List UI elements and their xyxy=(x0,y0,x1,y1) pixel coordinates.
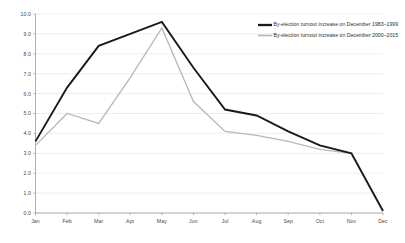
x-tick-label: Jul xyxy=(222,218,229,224)
y-tick-label: 4.0 xyxy=(23,130,31,136)
y-tick-label: 10.0 xyxy=(21,11,32,17)
series-line xyxy=(36,28,384,211)
line-chart: 0.01.02.03.04.05.06.07.08.09.010.0 JanFe… xyxy=(0,0,405,243)
x-tick-label: Apr xyxy=(126,218,135,224)
chart-legend: By-election turnout increase on December… xyxy=(258,21,398,38)
y-tick-label: 9.0 xyxy=(23,31,31,37)
chart-container: 0.01.02.03.04.05.06.07.08.09.010.0 JanFe… xyxy=(0,0,405,243)
legend-label: By-election turnout increase on December… xyxy=(274,32,399,38)
x-tick-label: Aug xyxy=(252,218,262,224)
x-tick-label: Dec xyxy=(378,218,388,224)
x-tick-label: Oct xyxy=(316,218,325,224)
y-tick-label: 1.0 xyxy=(23,190,31,196)
grid-lines xyxy=(36,14,384,213)
x-tick-label: Nov xyxy=(347,218,357,224)
y-tick-label: 3.0 xyxy=(23,150,31,156)
y-tick-label: 8.0 xyxy=(23,51,31,57)
series-lines xyxy=(36,22,384,211)
x-tick-label: Jan xyxy=(31,218,40,224)
x-axis: JanFebMarAprMayJunJulAugSepOctNovDec xyxy=(31,213,388,224)
legend-label: By-election turnout increase on December… xyxy=(274,21,399,27)
y-tick-label: 6.0 xyxy=(23,91,31,97)
x-tick-label: Feb xyxy=(62,218,71,224)
x-tick-label: Sep xyxy=(283,218,293,224)
y-tick-label: 0.0 xyxy=(23,210,31,216)
x-tick-label: Jun xyxy=(189,218,198,224)
y-tick-label: 5.0 xyxy=(23,110,31,116)
y-tick-label: 7.0 xyxy=(23,71,31,77)
y-tick-label: 2.0 xyxy=(23,170,31,176)
y-axis: 0.01.02.03.04.05.06.07.08.09.010.0 xyxy=(21,11,36,216)
x-tick-label: May xyxy=(157,218,167,224)
x-tick-label: Mar xyxy=(94,218,103,224)
